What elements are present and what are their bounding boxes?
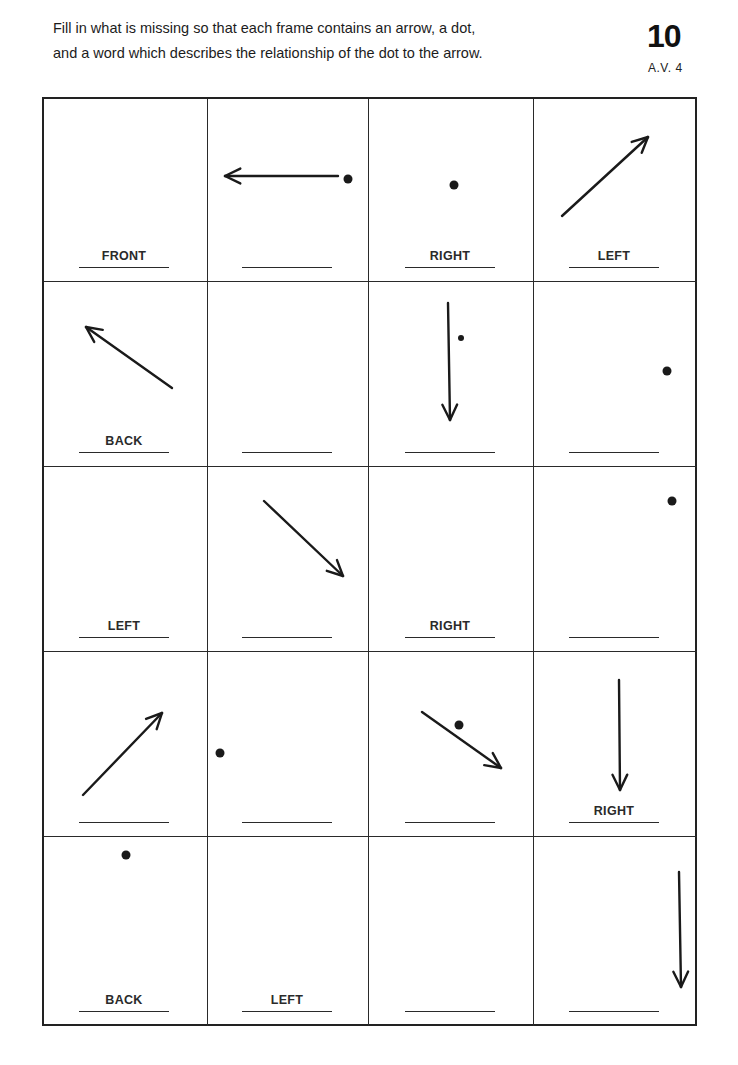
frame-drawing (534, 467, 697, 652)
frame-cell: BACK (44, 837, 208, 1026)
frame-cell: BACK (44, 282, 208, 467)
answer-blank[interactable] (405, 822, 495, 823)
answer-blank[interactable] (79, 1011, 169, 1012)
frame-drawing (208, 282, 369, 467)
frame-cell (369, 282, 534, 467)
arrow-icon (422, 712, 501, 768)
frame-cell (534, 837, 697, 1026)
frame-drawing (369, 837, 534, 1026)
relationship-word: LEFT (242, 993, 332, 1007)
instruction-line-2: and a word which describes the relations… (53, 41, 613, 66)
frame-drawing (534, 837, 697, 1026)
dot-icon (450, 181, 459, 190)
answer-blank[interactable] (79, 452, 169, 453)
frame-cell: RIGHT (369, 99, 534, 282)
answer-blank[interactable] (79, 267, 169, 268)
arrow-icon (442, 303, 457, 420)
arrow-icon (612, 680, 627, 790)
frame-cell: LEFT (208, 837, 369, 1026)
frame-drawing (44, 652, 208, 837)
relationship-word: RIGHT (405, 249, 495, 263)
answer-blank[interactable] (405, 452, 495, 453)
answer-blank[interactable] (405, 637, 495, 638)
frame-cell (534, 467, 697, 652)
relationship-word: RIGHT (405, 619, 495, 633)
frame-drawing (208, 99, 369, 282)
frame-cell (369, 652, 534, 837)
answer-blank[interactable] (405, 267, 495, 268)
relationship-word: BACK (79, 434, 169, 448)
frame-cell (208, 467, 369, 652)
frame-cell (369, 837, 534, 1026)
frame-cell: RIGHT (534, 652, 697, 837)
dot-icon (344, 175, 353, 184)
arrow-icon (264, 501, 343, 576)
relationship-word: LEFT (569, 249, 659, 263)
answer-blank[interactable] (569, 452, 659, 453)
frame-drawing (534, 282, 697, 467)
relationship-word: FRONT (79, 249, 169, 263)
answer-blank[interactable] (242, 637, 332, 638)
dot-icon (455, 721, 464, 730)
dot-icon (663, 367, 672, 376)
relationship-word: LEFT (79, 619, 169, 633)
arrow-icon (83, 713, 162, 795)
dot-icon (122, 851, 131, 860)
frame-cell (534, 282, 697, 467)
frame-cell: FRONT (44, 99, 208, 282)
answer-blank[interactable] (569, 637, 659, 638)
dot-icon (668, 497, 677, 506)
answer-blank[interactable] (79, 822, 169, 823)
answer-blank[interactable] (79, 637, 169, 638)
frame-cell: LEFT (44, 467, 208, 652)
dot-icon (216, 749, 225, 758)
answer-blank[interactable] (569, 822, 659, 823)
frame-drawing (369, 282, 534, 467)
instruction-line-1: Fill in what is missing so that each fra… (53, 16, 613, 41)
answer-blank[interactable] (242, 1011, 332, 1012)
instructions: Fill in what is missing so that each fra… (53, 16, 613, 66)
answer-blank[interactable] (569, 1011, 659, 1012)
answer-blank[interactable] (242, 822, 332, 823)
frame-cell: LEFT (534, 99, 697, 282)
frame-cell (208, 99, 369, 282)
frame-drawing (369, 652, 534, 837)
dot-icon (458, 335, 464, 341)
answer-blank[interactable] (405, 1011, 495, 1012)
frame-cell (208, 652, 369, 837)
arrow-icon (225, 169, 338, 184)
frame-cell: RIGHT (369, 467, 534, 652)
arrow-icon (673, 872, 688, 987)
answer-blank[interactable] (242, 452, 332, 453)
frame-drawing (208, 652, 369, 837)
page-number: 10 (647, 18, 681, 55)
answer-blank[interactable] (242, 267, 332, 268)
relationship-word: RIGHT (569, 804, 659, 818)
frame-cell (44, 652, 208, 837)
arrow-icon (562, 137, 648, 216)
frame-cell (208, 282, 369, 467)
exercise-grid: FRONTRIGHTLEFTBACKLEFTRIGHTRIGHTBACKLEFT (42, 97, 697, 1026)
answer-blank[interactable] (569, 267, 659, 268)
relationship-word: BACK (79, 993, 169, 1007)
page-code: A.V. 4 (648, 61, 683, 75)
arrow-icon (86, 327, 172, 388)
frame-drawing (208, 467, 369, 652)
